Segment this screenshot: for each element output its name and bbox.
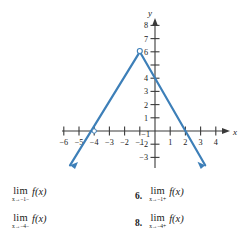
limit-approach: x→−4 [12, 223, 26, 229]
svg-text:−6: −6 [59, 138, 68, 147]
right-branch-line [140, 52, 205, 166]
svg-text:−3: −3 [139, 153, 148, 162]
exercise-list: lim x→−1− f(x) 6. lim x→−1+ f(x) [0, 186, 244, 248]
limit-side: − [26, 223, 29, 229]
limit-subscript: x→−1+ [149, 197, 166, 203]
exercise-row: lim x→−4− f(x) 8. lim x→−4+ f(x) [0, 213, 244, 240]
svg-text:3: 3 [144, 87, 148, 96]
left-branch-line [70, 52, 140, 166]
limit-approach: x→−1 [12, 196, 26, 202]
limit-word: lim [13, 186, 27, 197]
open-point-x-intercept [92, 129, 96, 133]
limit-side: + [163, 223, 166, 229]
graph-figure: x y −6 −5 −4 −3 −2 [0, 0, 244, 186]
svg-text:−2: −2 [120, 138, 129, 147]
svg-text:2: 2 [183, 138, 187, 147]
x-axis-label: x [232, 127, 237, 137]
limit-expression: lim x→−1− f(x) [12, 186, 47, 203]
y-axis-label: y [147, 8, 152, 18]
svg-text:8: 8 [144, 21, 148, 30]
exercise-item-5[interactable]: lim x→−1− f(x) [12, 186, 47, 203]
svg-text:1: 1 [168, 138, 172, 147]
svg-text:−4: −4 [90, 138, 99, 147]
limit-subscript: x→−4− [12, 224, 29, 230]
limit-expression: lim x→−4− f(x) [12, 213, 47, 230]
limit-subscript: x→−4+ [149, 224, 166, 230]
exercise-number: 8. [135, 213, 142, 233]
limit-operator: lim x→−4+ [149, 213, 166, 230]
svg-text:2: 2 [144, 101, 148, 110]
y-axis-tick-labels: 1 2 3 4 6 7 8 −1 −2 −3 [139, 21, 150, 162]
open-point-vertex [137, 49, 142, 54]
coordinate-plane-svg: x y −6 −5 −4 −3 −2 [0, 0, 244, 186]
limit-side: + [163, 196, 166, 202]
function-expression: f(x) [32, 213, 47, 224]
exercise-item-6[interactable]: 6. lim x→−1+ f(x) [135, 186, 184, 206]
limit-side: − [26, 196, 29, 202]
svg-text:−1: −1 [141, 130, 150, 139]
y-axis-arrow [152, 18, 158, 26]
limit-operator: lim x→−4− [12, 213, 29, 230]
exercise-item-7[interactable]: lim x→−4− f(x) [12, 213, 47, 230]
svg-text:7: 7 [144, 35, 148, 44]
limit-subscript: x→−1− [12, 197, 29, 203]
svg-text:1: 1 [144, 114, 148, 123]
function-expression: f(x) [32, 186, 47, 197]
limit-expression: lim x→−4+ f(x) [149, 213, 184, 230]
function-expression: f(x) [169, 186, 184, 197]
svg-text:6: 6 [144, 48, 148, 57]
figure-page: x y −6 −5 −4 −3 −2 [0, 0, 244, 248]
limit-approach: x→−1 [149, 196, 163, 202]
x-axis-arrow [222, 128, 230, 134]
limit-operator: lim x→−1− [12, 186, 29, 203]
svg-text:4: 4 [144, 74, 148, 83]
limit-expression: lim x→−1+ f(x) [149, 186, 184, 203]
exercise-item-8[interactable]: 8. lim x→−4+ f(x) [135, 213, 184, 233]
svg-text:3: 3 [199, 138, 203, 147]
limit-word: lim [150, 213, 164, 224]
limit-operator: lim x→−1+ [149, 186, 166, 203]
function-expression: f(x) [169, 213, 184, 224]
svg-text:4: 4 [214, 138, 218, 147]
svg-text:−3: −3 [105, 138, 114, 147]
svg-text:−2: −2 [139, 140, 148, 149]
exercise-row: lim x→−1− f(x) 6. lim x→−1+ f(x) [0, 186, 244, 213]
limit-approach: x→−4 [149, 223, 163, 229]
limit-word: lim [150, 186, 164, 197]
limit-word: lim [13, 213, 27, 224]
exercise-number: 6. [135, 186, 142, 206]
